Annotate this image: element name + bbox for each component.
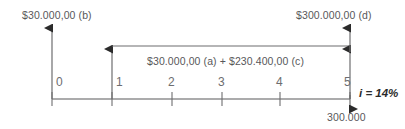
period-label-4: 4: [276, 76, 283, 88]
inflow-value-label-b: $30.000,00 (b): [22, 10, 92, 21]
period-label-5: 5: [344, 76, 351, 88]
outflow-value-label: 300.000: [327, 112, 366, 123]
interest-rate-label: i = 14%: [359, 88, 398, 100]
period-label-2: 2: [168, 76, 175, 88]
period-label-3: 3: [218, 76, 225, 88]
period-label-0: 0: [56, 76, 63, 88]
period-label-1: 1: [116, 76, 123, 88]
inflow-value-label-d: $300.000,00 (d): [296, 10, 372, 21]
bracket-sum-label: $30.000,00 (a) + $230.400,00 (c): [147, 56, 304, 67]
